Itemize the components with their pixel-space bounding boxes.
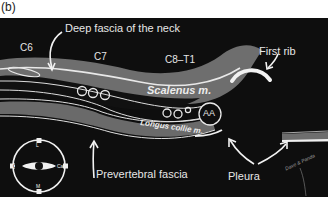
label-prevertebral-fascia: Prevertebral fascia	[96, 168, 188, 180]
label-aa: AA	[203, 108, 215, 118]
label-deep-fascia: Deep fascia of the neck	[65, 22, 180, 34]
anatomy-diagram: C6 C7 C8–T1 Deep fascia of the neck Firs…	[0, 18, 328, 197]
label-c6: C6	[20, 42, 33, 53]
label-c8-t1: C8–T1	[165, 54, 195, 65]
label-scalenus: Scalenus m.	[147, 84, 211, 96]
compass-bottom-label: M	[36, 183, 40, 189]
compass-left-label: Cr	[13, 163, 18, 169]
label-pleura: Pleura	[228, 170, 260, 182]
compass-top-label: L	[36, 142, 39, 148]
label-c7: C7	[94, 51, 107, 62]
compass-right-label: Ca	[57, 163, 63, 169]
label-first-rib: First rib	[259, 45, 296, 57]
panel-label: (b)	[1, 0, 16, 14]
